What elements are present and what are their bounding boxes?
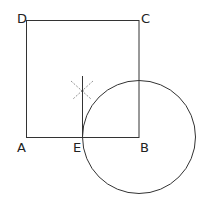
label-e: E (73, 141, 81, 154)
label-b: B (140, 141, 149, 154)
construction-figure (0, 0, 206, 203)
intersection-point (82, 90, 84, 92)
label-c: C (141, 12, 150, 25)
label-a: A (17, 141, 26, 154)
diagram-canvas: D C A E B (0, 0, 206, 203)
label-d: D (17, 12, 27, 25)
